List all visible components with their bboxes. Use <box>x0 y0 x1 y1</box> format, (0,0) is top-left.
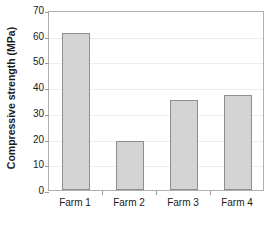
x-axis-tick-label: Farm 3 <box>167 198 199 208</box>
x-axis-tick-label: Farm 2 <box>113 198 145 208</box>
bar[interactable] <box>62 33 90 190</box>
x-axis-tick-mark <box>156 191 157 195</box>
bar-slot <box>49 12 103 190</box>
bar[interactable] <box>116 141 144 190</box>
y-axis-title-text: Compressive strength (MPa) <box>5 26 17 168</box>
bar-slot <box>157 12 211 190</box>
x-axis-tick-mark <box>102 191 103 195</box>
y-axis-tick-label: 20 <box>18 135 44 145</box>
y-axis-tick-label: 50 <box>18 57 44 67</box>
x-axis-tick-mark <box>210 191 211 195</box>
plot-area <box>48 11 264 191</box>
y-axis-tick-label: 60 <box>18 32 44 42</box>
bars-layer <box>49 12 263 190</box>
y-axis-tick-mark <box>45 192 49 193</box>
x-axis-tick-label: Farm 4 <box>221 198 253 208</box>
bar[interactable] <box>224 95 252 190</box>
y-axis-tick-label: 10 <box>18 160 44 170</box>
y-axis-tick-label: 40 <box>18 83 44 93</box>
y-axis-tick-label: 70 <box>18 6 44 16</box>
y-axis-tick-label: 30 <box>18 109 44 119</box>
x-axis-tick-label: Farm 1 <box>59 198 91 208</box>
bar[interactable] <box>170 100 198 190</box>
bar-chart-figure: Compressive strength (MPa) 0102030405060… <box>0 0 275 225</box>
y-axis-tick-labels: 010203040506070 <box>18 11 44 191</box>
bar-slot <box>103 12 157 190</box>
y-axis-tick-label: 0 <box>18 186 44 196</box>
bar-slot <box>211 12 265 190</box>
